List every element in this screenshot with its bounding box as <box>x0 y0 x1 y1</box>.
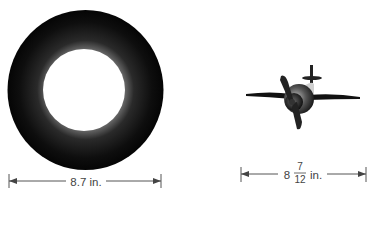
airplane-figure <box>230 50 380 150</box>
airplane-dimension-unit: in. <box>310 169 322 181</box>
arrow-left-icon <box>241 171 249 177</box>
arrow-right-icon <box>153 178 161 184</box>
arrow-right-icon <box>358 171 366 177</box>
ring-dimension-label: 8.7 in. <box>70 176 101 188</box>
arrow-left-icon <box>9 178 17 184</box>
airplane-dimension-denominator: 12 <box>294 174 306 185</box>
airplane-icon <box>230 50 380 150</box>
ring-dimension: 8.7 in. <box>0 170 190 194</box>
airplane-dimension-whole: 8 <box>284 169 290 181</box>
airplane-dimension-numerator: 7 <box>297 161 303 172</box>
airplane-dimension: 8 7 12 in. <box>230 158 380 192</box>
